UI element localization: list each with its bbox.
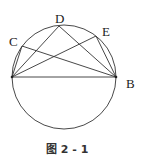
label-d: D	[55, 11, 64, 26]
point-b	[115, 76, 118, 79]
label-c: C	[9, 34, 18, 49]
chord-ac	[12, 46, 22, 77]
chord-eb	[96, 36, 116, 77]
chord-cb	[22, 46, 116, 77]
figure-caption: 图 2 - 1	[46, 143, 88, 156]
label-b: B	[126, 76, 135, 91]
point-a	[11, 76, 14, 79]
geometry-figure: C D E B 图 2 - 1	[0, 0, 146, 159]
label-e: E	[102, 24, 110, 39]
